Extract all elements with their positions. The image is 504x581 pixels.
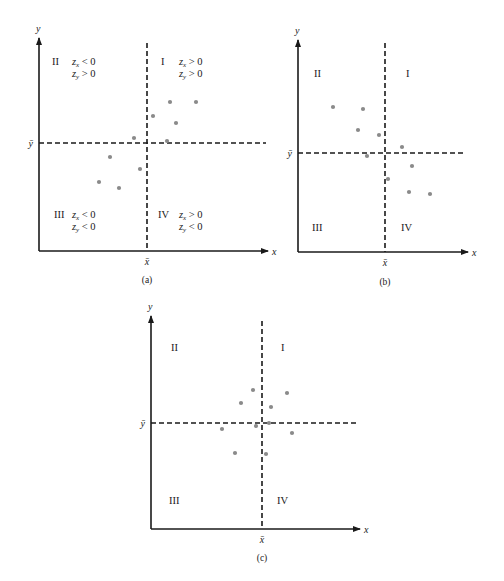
- quadrant-label-I: I: [161, 56, 165, 67]
- y-mean-label: ȳ: [140, 418, 146, 429]
- y-axis-label: y: [35, 23, 41, 34]
- data-point: [365, 154, 369, 158]
- data-point: [151, 114, 155, 118]
- panel-caption: (c): [257, 553, 268, 564]
- data-point: [168, 100, 172, 104]
- quadrant-label-II: II: [314, 68, 321, 79]
- data-point: [132, 136, 136, 140]
- data-point: [194, 100, 198, 104]
- data-point: [220, 427, 224, 431]
- quadrant-label-III: III: [169, 495, 180, 506]
- quadrant-label-III: III: [54, 209, 65, 220]
- panel-a: xyx̄ȳ(a)IIzx < 0zy > 0Izx > 0zy > 0IIIzx…: [28, 23, 277, 286]
- data-point: [290, 431, 294, 435]
- data-point: [165, 139, 169, 143]
- zy-condition: zy < 0: [71, 221, 96, 234]
- data-point: [264, 452, 268, 456]
- quadrant-label-IV: IV: [401, 222, 412, 233]
- y-mean-label: ȳ: [287, 148, 293, 159]
- panel-caption: (a): [142, 275, 153, 286]
- quadrant-label-I: I: [281, 342, 285, 353]
- data-point: [233, 451, 237, 455]
- x-mean-label: x̄: [144, 256, 150, 267]
- data-point: [386, 177, 390, 181]
- panel-caption: (b): [379, 277, 390, 288]
- panel-c: xyx̄ȳ(c)IIIIIIIV: [140, 301, 369, 564]
- y-axis-label: y: [147, 301, 153, 312]
- zy-condition: zy < 0: [178, 221, 203, 234]
- data-point: [267, 421, 271, 425]
- panel-b: xyx̄ȳ(b)IIIIIIIV: [287, 25, 477, 288]
- data-point: [377, 133, 381, 137]
- data-point: [285, 391, 289, 395]
- data-point: [356, 128, 360, 132]
- data-point: [251, 388, 255, 392]
- data-point: [97, 180, 101, 184]
- quadrant-label-II: II: [171, 342, 178, 353]
- data-point: [239, 401, 243, 405]
- data-point: [138, 167, 142, 171]
- y-axis-label: y: [294, 25, 300, 36]
- zy-condition: zy > 0: [178, 68, 203, 81]
- data-point: [117, 186, 121, 190]
- quadrant-label-III: III: [312, 222, 323, 233]
- data-point: [269, 405, 273, 409]
- data-point: [361, 107, 365, 111]
- x-mean-label: x̄: [382, 257, 388, 268]
- data-point: [108, 155, 112, 159]
- y-mean-label: ȳ: [28, 138, 34, 149]
- data-point: [407, 190, 411, 194]
- quadrant-label-IV: IV: [277, 495, 288, 506]
- x-axis-label: x: [471, 247, 477, 258]
- data-point: [400, 145, 404, 149]
- quadrant-label-IV: IV: [158, 209, 169, 220]
- data-point: [174, 121, 178, 125]
- data-point: [331, 105, 335, 109]
- x-mean-label: x̄: [259, 534, 265, 545]
- x-axis-label: x: [363, 524, 369, 535]
- quadrant-label-II: II: [52, 56, 59, 67]
- quadrant-label-I: I: [406, 68, 410, 79]
- x-axis-label: x: [271, 246, 277, 257]
- data-point: [428, 192, 432, 196]
- data-point: [410, 164, 414, 168]
- zy-condition: zy > 0: [71, 68, 96, 81]
- data-point: [254, 424, 258, 428]
- scatter-quadrant-diagram: xyx̄ȳ(a)IIzx < 0zy > 0Izx > 0zy > 0IIIzx…: [0, 0, 504, 581]
